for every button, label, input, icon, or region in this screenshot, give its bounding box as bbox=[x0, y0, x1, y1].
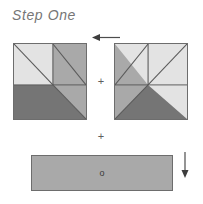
plus-operator-top: + bbox=[95, 76, 107, 87]
step-one-diagram: Step One bbox=[0, 0, 203, 204]
page-title: Step One bbox=[12, 7, 76, 23]
plus-operator-bottom: + bbox=[95, 131, 107, 142]
block-left bbox=[13, 43, 87, 120]
bottom-strip: o bbox=[31, 155, 173, 191]
strip-direction-arrow bbox=[180, 152, 190, 178]
strip-marker: o bbox=[99, 169, 104, 178]
top-direction-arrow bbox=[92, 33, 120, 42]
block-right bbox=[114, 43, 188, 120]
